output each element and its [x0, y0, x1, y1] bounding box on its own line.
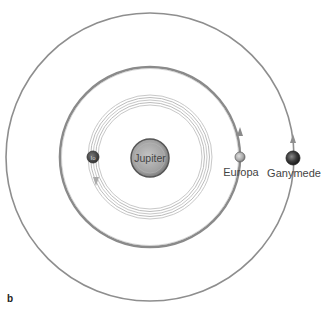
- europa-moon: Europa: [223, 152, 259, 178]
- io-label: Io: [90, 155, 96, 161]
- panel-label: b: [7, 293, 13, 304]
- ganymede-moon: Ganymede: [267, 151, 321, 179]
- europa-label: Europa: [223, 166, 259, 178]
- jupiter-planet: Jupiter: [131, 139, 169, 177]
- europa-orbit-arrow-icon: [237, 127, 243, 136]
- orbital-diagram: Jupiter Io Europa Ganymede b: [0, 0, 324, 309]
- ganymede-orbit-arrow-icon: [290, 134, 296, 143]
- jupiter-label: Jupiter: [134, 152, 166, 164]
- ganymede-label: Ganymede: [267, 167, 321, 179]
- io-moon: Io: [87, 151, 99, 163]
